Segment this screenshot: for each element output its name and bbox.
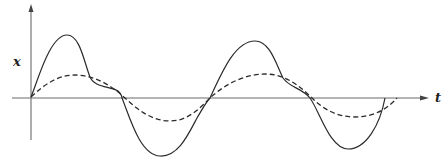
x-axis	[12, 96, 429, 101]
y-axis	[29, 4, 34, 140]
x-axis-arrow-icon	[420, 96, 429, 101]
y-axis-arrow-icon	[29, 4, 34, 12]
waveform-diagram: x t	[0, 0, 448, 164]
y-axis-label: x	[12, 54, 21, 69]
x-axis-label: t	[435, 90, 441, 105]
resultant-curve	[31, 35, 385, 156]
